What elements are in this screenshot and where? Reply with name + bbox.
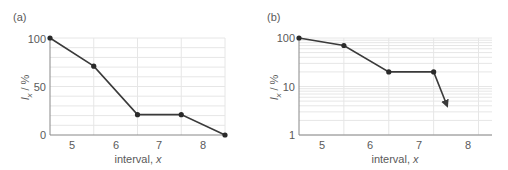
chart-a-x-tick-labels: 5 6 7 8 [69, 139, 206, 151]
x-tick-label: 6 [113, 139, 119, 151]
x-tick-label: 5 [69, 139, 75, 151]
data-point [47, 35, 52, 40]
data-point [341, 43, 346, 48]
data-point [91, 64, 96, 69]
x-tick-label: 8 [465, 139, 471, 151]
chart-a-y-axis-title: lx / % [19, 74, 34, 100]
y-tick-label: 100 [277, 32, 295, 44]
x-tick-label: 6 [367, 139, 373, 151]
y-tick-label: 50 [34, 81, 46, 93]
data-point [135, 112, 140, 117]
data-point [296, 35, 301, 40]
x-tick-label: 5 [319, 139, 325, 151]
chart-b-gridlines [299, 38, 492, 135]
data-point [386, 69, 391, 74]
chart-b-svg: (b) 100 10 1 5 6 7 8 interval, x lx / % [254, 0, 508, 170]
data-point [431, 69, 436, 74]
chart-b-y-axis-title: lx / % [268, 74, 283, 100]
y-tick-label: 100 [28, 33, 46, 45]
chart-panel-b: (b) 100 10 1 5 6 7 8 interval, x lx / % [254, 0, 508, 170]
chart-panel-a: (a) 100 50 0 5 6 7 8 interval, x lx / % [0, 0, 254, 170]
chart-a-x-axis-title: interval, x [114, 153, 162, 165]
x-tick-label: 7 [416, 139, 422, 151]
data-point [222, 132, 227, 137]
y-tick-label: 0 [40, 129, 46, 141]
x-tick-label: 8 [200, 139, 206, 151]
chart-b-x-axis-title: interval, x [371, 153, 419, 165]
chart-a-gridlines [50, 38, 225, 135]
panel-label-b: (b) [267, 11, 280, 23]
data-point [179, 112, 184, 117]
chart-b-x-tick-labels: 5 6 7 8 [319, 139, 471, 151]
chart-a-svg: (a) 100 50 0 5 6 7 8 interval, x lx / % [0, 0, 254, 170]
panel-label-a: (a) [13, 11, 26, 23]
x-tick-label: 7 [156, 139, 162, 151]
y-tick-label: 10 [283, 81, 295, 93]
y-tick-label: 1 [289, 129, 295, 141]
